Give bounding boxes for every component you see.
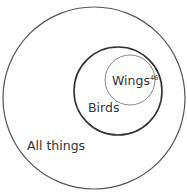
wings-label: Wings46 <box>112 73 158 88</box>
birds-label: Birds <box>88 100 119 115</box>
all-things-label: All things <box>27 138 85 153</box>
wings-label-text: Wings <box>112 73 150 88</box>
nested-circles-diagram: All things Birds Wings46 <box>0 0 187 195</box>
birds-circle <box>74 47 162 135</box>
all-things-circle <box>3 7 185 189</box>
wings-footnote-superscript: 46 <box>150 74 158 82</box>
